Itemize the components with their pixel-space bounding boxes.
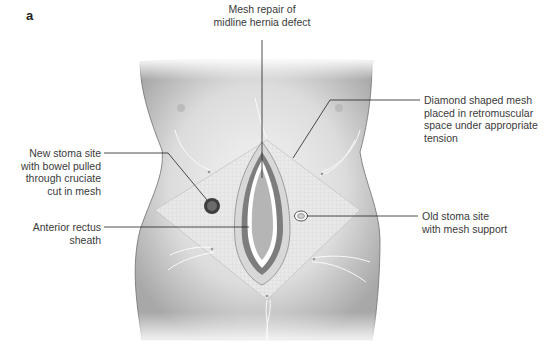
label-diamond-mesh: Diamond shaped mesh placed in retromuscu…	[424, 94, 538, 144]
label-new-stoma: New stoma site with bowel pulled through…	[0, 147, 101, 197]
label-anterior-rectus: Anterior rectus sheath	[0, 221, 101, 246]
label-mesh-repair: Mesh repair of midline hernia defect	[197, 3, 327, 28]
right-nipple	[335, 104, 343, 112]
left-nipple	[177, 104, 185, 112]
label-old-stoma: Old stoma site with mesh support	[422, 210, 507, 235]
